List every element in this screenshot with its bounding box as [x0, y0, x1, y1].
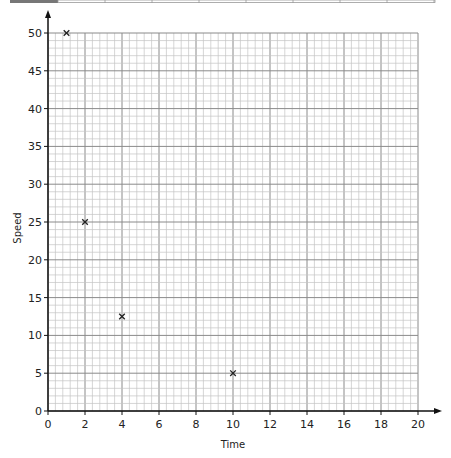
y-tick-label: 0: [35, 405, 42, 418]
y-tick-label: 15: [28, 292, 42, 305]
x-tick-label: 6: [156, 418, 163, 431]
x-tick-label: 4: [119, 418, 126, 431]
y-tick-label: 20: [28, 254, 42, 267]
y-tick-label: 45: [28, 65, 42, 78]
y-axis-ticks: 05101520253035404550: [28, 27, 48, 418]
x-tick-label: 16: [337, 418, 351, 431]
x-tick-label: 2: [82, 418, 89, 431]
chart-grid: [48, 33, 418, 411]
x-tick-label: 12: [263, 418, 277, 431]
y-tick-label: 25: [28, 216, 42, 229]
x-tick-label: 14: [300, 418, 314, 431]
data-points: [64, 30, 236, 376]
y-tick-label: 50: [28, 27, 42, 40]
y-tick-label: 5: [35, 367, 42, 380]
y-tick-label: 30: [28, 178, 42, 191]
y-tick-label: 40: [28, 103, 42, 116]
x-tick-label: 10: [226, 418, 240, 431]
x-tick-label: 0: [45, 418, 52, 431]
x-tick-label: 8: [193, 418, 200, 431]
x-tick-label: 20: [411, 418, 425, 431]
y-tick-label: 10: [28, 329, 42, 342]
x-axis-label: Time: [220, 439, 245, 450]
x-tick-label: 18: [374, 418, 388, 431]
scatter-chart: 02468101214161820 05101520253035404550 T…: [0, 0, 451, 458]
y-axis-label: Speed: [12, 212, 23, 243]
x-axis-ticks: 02468101214161820: [45, 411, 426, 431]
y-tick-label: 35: [28, 140, 42, 153]
